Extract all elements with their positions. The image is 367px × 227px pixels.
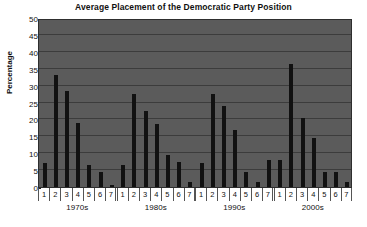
y-axis-tick-label: 5 xyxy=(4,167,38,176)
x-axis-category-label: 7 xyxy=(105,188,116,201)
bar xyxy=(155,124,159,187)
x-axis-group-label: 1990s xyxy=(195,203,274,212)
bar xyxy=(278,160,282,187)
y-axis-tick-label: 30 xyxy=(4,82,38,91)
bar-chart: Average Placement of the Democratic Part… xyxy=(0,0,367,227)
x-axis-category-label: 5 xyxy=(240,188,251,201)
gridline xyxy=(39,34,351,35)
x-axis-category-label: 1 xyxy=(117,188,128,201)
bar xyxy=(222,106,226,187)
bar xyxy=(312,138,316,187)
x-axis-group-label: 1970s xyxy=(38,203,117,212)
bar xyxy=(188,182,192,187)
x-axis-category-label: 3 xyxy=(217,188,228,201)
x-axis-category-label: 5 xyxy=(161,188,172,201)
y-axis-tick-label: 20 xyxy=(4,116,38,125)
y-axis-tick-label: 35 xyxy=(4,65,38,74)
y-axis-tick-labels: 50454035302520151050 xyxy=(0,19,38,188)
x-axis: 1234567123456712345671234567 1970s1980s1… xyxy=(38,188,352,227)
chart-title: Average Placement of the Democratic Part… xyxy=(0,2,367,12)
bar xyxy=(211,94,215,187)
bar xyxy=(267,160,271,187)
x-axis-category-label: 4 xyxy=(72,188,83,201)
x-axis-category-row: 1234567123456712345671234567 xyxy=(38,188,352,201)
bar xyxy=(334,172,338,187)
bar xyxy=(177,162,181,187)
x-axis-group-label: 1980s xyxy=(117,203,196,212)
x-axis-category-label: 6 xyxy=(251,188,262,201)
bar xyxy=(132,94,136,187)
bar xyxy=(144,111,148,187)
x-axis-category-label: 3 xyxy=(60,188,71,201)
gridline xyxy=(39,102,351,103)
bar xyxy=(76,123,80,187)
y-axis-tick-label: 25 xyxy=(4,99,38,108)
bar xyxy=(166,155,170,187)
y-axis-tick-label: 40 xyxy=(4,48,38,57)
x-axis-category-label: 6 xyxy=(173,188,184,201)
x-axis-category-label: 2 xyxy=(285,188,296,201)
bar xyxy=(323,172,327,187)
x-axis-category-label: 3 xyxy=(139,188,150,201)
y-axis-tick-label: 15 xyxy=(4,133,38,142)
bar xyxy=(233,130,237,187)
x-axis-category-label: 3 xyxy=(296,188,307,201)
bar xyxy=(87,165,91,187)
bar xyxy=(256,182,260,187)
x-axis-category-label: 5 xyxy=(83,188,94,201)
bar xyxy=(54,75,58,187)
x-axis-category-label: 1 xyxy=(195,188,206,201)
gridline xyxy=(39,85,351,86)
bar xyxy=(345,182,349,187)
bar xyxy=(43,163,47,187)
x-axis-category-label: 4 xyxy=(307,188,318,201)
x-axis-category-label: 2 xyxy=(206,188,217,201)
gridline xyxy=(39,68,351,69)
plot-area xyxy=(38,19,352,188)
y-axis-tick-label: 10 xyxy=(4,150,38,159)
x-axis-category-label: 1 xyxy=(38,188,49,201)
x-axis-category-label: 4 xyxy=(229,188,240,201)
y-axis-tick-label: 0 xyxy=(4,184,38,193)
y-axis-tick-label: 50 xyxy=(4,15,38,24)
x-axis-category-label: 2 xyxy=(49,188,60,201)
x-axis-category-label: 7 xyxy=(262,188,273,201)
x-axis-category-label: 6 xyxy=(94,188,105,201)
bar xyxy=(301,118,305,187)
bar xyxy=(65,91,69,187)
bar xyxy=(99,172,103,187)
y-axis-tick-label: 45 xyxy=(4,31,38,40)
x-axis-category-label: 5 xyxy=(318,188,329,201)
gridline xyxy=(39,51,351,52)
bar xyxy=(200,163,204,187)
x-axis-category-label: 4 xyxy=(150,188,161,201)
bar xyxy=(110,185,114,187)
x-axis-category-label: 1 xyxy=(274,188,285,201)
x-axis-category-label: 6 xyxy=(330,188,341,201)
x-axis-group-label: 2000s xyxy=(274,203,353,212)
x-axis-category-label: 7 xyxy=(184,188,195,201)
x-axis-category-label: 7 xyxy=(341,188,352,201)
bar xyxy=(121,165,125,187)
bar xyxy=(289,64,293,187)
bar xyxy=(244,172,248,187)
x-axis-category-label: 2 xyxy=(128,188,139,201)
